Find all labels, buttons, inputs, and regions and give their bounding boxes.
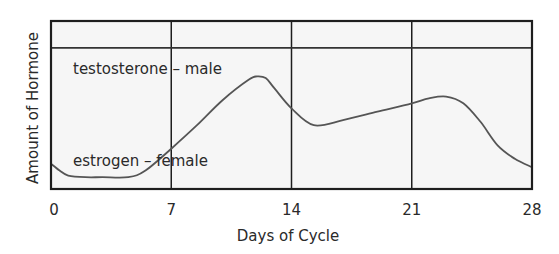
hormone-chart: testosterone – male estrogen – female 07… — [0, 0, 559, 254]
x-tick-label: 7 — [166, 201, 176, 219]
x-axis-ticks: 07142128 — [49, 201, 541, 219]
estrogen-label: estrogen – female — [73, 152, 208, 170]
y-axis-title: Amount of Hormone — [24, 32, 42, 184]
x-tick-label: 0 — [49, 201, 59, 219]
x-axis-title: Days of Cycle — [237, 227, 339, 245]
x-tick-label: 28 — [522, 201, 541, 219]
x-tick-label: 21 — [402, 201, 421, 219]
testosterone-label: testosterone – male — [73, 60, 222, 78]
x-tick-label: 14 — [282, 201, 301, 219]
